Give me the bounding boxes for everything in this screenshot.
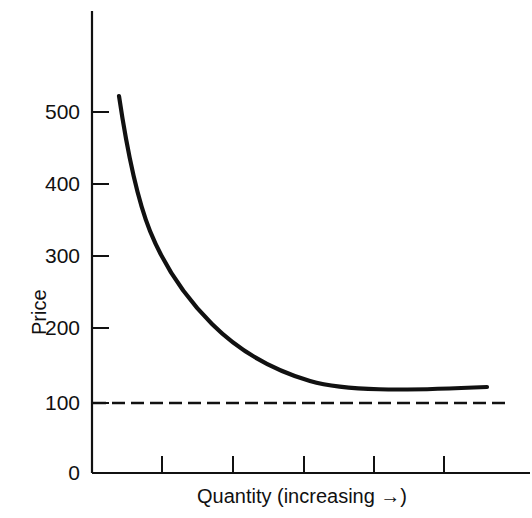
x-axis-title: Quantity (increasing →): [92, 485, 512, 508]
y-tick-label-400: 400: [24, 173, 80, 194]
price-quantity-curve: [119, 96, 487, 389]
y-axis-title: Price: [28, 289, 51, 335]
chart-figure: 500 400 300 200 100 0 Price Quantity (in…: [0, 0, 532, 518]
y-tick-label-300: 300: [24, 245, 80, 266]
y-tick-label-500: 500: [24, 101, 80, 122]
y-tick-label-100: 100: [24, 392, 80, 413]
y-tick-label-0: 0: [24, 462, 80, 483]
